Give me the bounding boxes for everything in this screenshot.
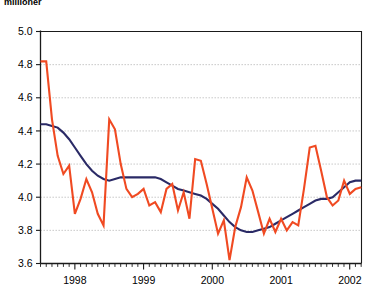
y-tick-label: 4.6 [18, 91, 33, 103]
y-tick-label: 4.4 [18, 125, 33, 137]
x-tick-label: 1998 [63, 274, 87, 286]
y-tick-label: 4.2 [18, 158, 33, 170]
x-tick-label: 2001 [269, 274, 293, 286]
chart-container: millioner 5.04.84.64.44.24.03.83.6199819… [0, 0, 375, 294]
y-tick-label: 4.8 [18, 58, 33, 70]
y-tick-label: 5.0 [18, 25, 33, 37]
y-tick-label: 4.0 [18, 191, 33, 203]
y-tick-label: 3.6 [18, 257, 33, 269]
x-tick-label: 1999 [132, 274, 156, 286]
series-line-trend [41, 124, 362, 232]
x-tick-label: 2002 [338, 274, 362, 286]
y-tick-label: 3.8 [18, 224, 33, 236]
line-chart-plot: 5.04.84.64.44.24.03.83.61998199920002001… [0, 0, 375, 294]
x-tick-label: 2000 [201, 274, 225, 286]
